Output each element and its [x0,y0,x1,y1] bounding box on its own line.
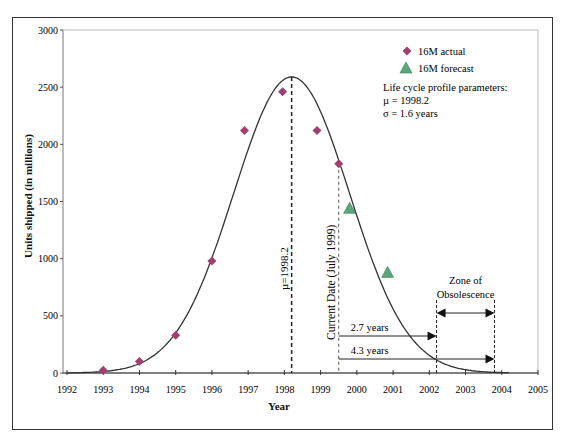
actual-point [334,159,343,168]
y-tick-label: 1000 [38,253,58,264]
forecast-point [382,266,394,277]
x-tick-label: 1998 [274,384,294,395]
actual-point [312,126,321,135]
current-date-label: Current Date (July 1999) [325,225,338,340]
actual-point [403,47,412,56]
x-tick-label: 1992 [57,384,77,395]
zone-label-2: Obsolescence [437,289,495,300]
chart-canvas: 0500100015002000250030001992199319941995… [0,0,569,436]
x-tick-label: 1993 [93,384,113,395]
params-title: Life cycle profile parameters: [383,82,508,93]
legend-forecast-label: 16M forecast [418,63,474,74]
axes: 0500100015002000250030001992199319941995… [38,25,548,396]
arrow1-label: 2.7 years [351,322,389,333]
actual-point [171,331,180,340]
x-tick-label: 2000 [347,384,367,395]
zone-label: Zone of [449,275,482,286]
x-tick-label: 1995 [166,384,186,395]
y-tick-label: 3000 [38,25,58,36]
x-tick-label: 2004 [492,384,512,395]
y-tick-label: 1500 [38,196,58,207]
x-tick-label: 1996 [202,384,222,395]
y-tick-label: 0 [53,368,58,379]
annotations: µ=1998.2Current Date (July 1999)2.7 year… [278,77,495,373]
x-tick-label: 2002 [419,384,439,395]
x-tick-label: 1997 [238,384,258,395]
data-points [99,87,394,374]
mu-param: µ = 1998.2 [383,95,429,106]
legend: 16M actual16M forecastLife cycle profile… [383,46,508,119]
mu-line-label: µ=1998.2 [278,247,290,290]
actual-point [278,87,287,96]
life-cycle-curve [67,77,509,373]
y-tick-label: 2500 [38,82,58,93]
x-tick-label: 2001 [383,384,403,395]
sigma-param: σ = 1.6 years [383,108,438,119]
y-tick-label: 500 [43,310,58,321]
y-tick-label: 2000 [38,139,58,150]
x-tick-label: 2003 [456,384,476,395]
actual-point [240,126,249,135]
arrow2-label: 4.3 years [351,345,389,356]
x-tick-label: 2005 [528,384,548,395]
actual-point [207,256,216,265]
x-tick-label: 1994 [129,384,149,395]
x-tick-label: 1999 [311,384,331,395]
legend-actual-label: 16M actual [418,46,466,57]
forecast-point [400,62,412,73]
